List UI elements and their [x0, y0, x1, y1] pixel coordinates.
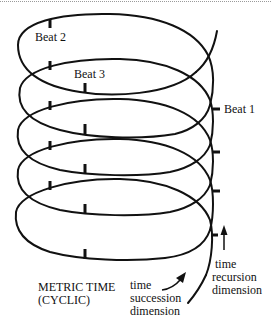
figure-subtitle: (CYCLIC) — [38, 294, 90, 307]
beat3-label: Beat 3 — [74, 68, 105, 81]
succession-label-line3: dimension — [130, 305, 180, 318]
recursion-label-line3: dimension — [212, 284, 262, 297]
beat1-label: Beat 1 — [224, 103, 255, 116]
helix-spiral — [16, 14, 217, 303]
beat2-label: Beat 2 — [35, 31, 66, 44]
recursion-arrow-icon — [221, 225, 228, 250]
succession-arrow-icon — [162, 272, 186, 290]
